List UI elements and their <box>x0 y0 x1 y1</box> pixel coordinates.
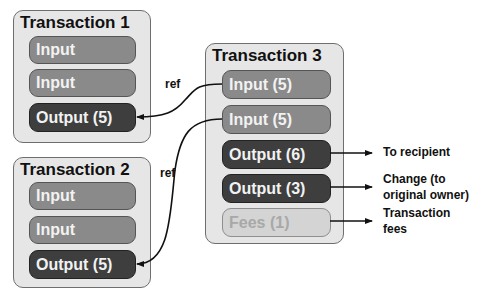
ref-label-1: ref <box>165 76 180 92</box>
destination-recipient-line1: To recipient <box>383 144 450 160</box>
ref-label-2: ref <box>160 165 175 181</box>
transaction-1-title: Transaction 1 <box>20 13 130 33</box>
tx3-input-1: Input (5) <box>222 70 331 99</box>
tx2-output: Output (5) <box>29 250 136 279</box>
transaction-2-box: Transaction 2 Input Input Output (5) <box>13 157 151 288</box>
destination-fees-line1: Transaction <box>383 205 450 221</box>
destination-change-line1: Change (to <box>383 171 469 187</box>
tx3-fees: Fees (1) <box>222 208 331 237</box>
destination-change: Change (to original owner) <box>383 171 469 203</box>
destination-fees: Transaction fees <box>383 205 450 237</box>
transaction-2-title: Transaction 2 <box>20 160 130 180</box>
tx2-input-2: Input <box>29 216 136 244</box>
transaction-3-title: Transaction 3 <box>212 46 322 66</box>
tx3-output-change: Output (3) <box>222 174 331 203</box>
transaction-3-box: Transaction 3 Input (5) Input (5) Output… <box>205 43 344 244</box>
tx3-input-2: Input (5) <box>222 105 331 134</box>
tx1-input-1: Input <box>29 36 136 64</box>
destination-recipient: To recipient <box>383 144 450 160</box>
destination-change-line2: original owner) <box>383 187 469 203</box>
tx1-input-2: Input <box>29 69 136 97</box>
transaction-1-box: Transaction 1 Input Input Output (5) <box>13 10 151 143</box>
tx3-output-recipient: Output (6) <box>222 140 331 169</box>
tx1-output: Output (5) <box>29 103 136 132</box>
destination-fees-line2: fees <box>383 221 450 237</box>
tx2-input-1: Input <box>29 182 136 210</box>
